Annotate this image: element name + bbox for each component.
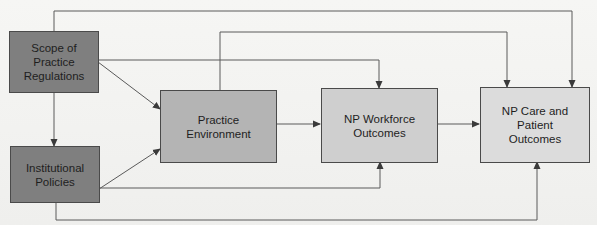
edge-scope-to-care [54, 11, 572, 87]
node-label-line: Practice Environment [161, 113, 276, 141]
node-label-line: Policies [35, 176, 75, 188]
node-np-care-and-patient-outcomes: NP Care and Patient Outcomes [480, 87, 590, 163]
diagram-canvas: Scope of Practice Regulations Institutio… [0, 0, 597, 225]
node-practice-environment: Practice Environment [160, 90, 277, 163]
node-label-line: Regulations [24, 70, 85, 82]
node-label-line: Outcomes [509, 133, 561, 145]
node-label-line: NP Care and Patient [502, 105, 568, 131]
node-scope-of-practice-regulations: Scope of Practice Regulations [9, 31, 99, 93]
node-label-line: Institutional [26, 162, 84, 174]
node-label-line: Scope of Practice [31, 42, 76, 68]
edge-environment-to-care [220, 32, 507, 90]
edge-scope-to-workforce [98, 60, 379, 88]
node-institutional-policies: Institutional Policies [10, 146, 100, 203]
node-label-line: NP Workforce [344, 113, 415, 125]
edge-scope-to-environment [98, 62, 160, 109]
node-label-line: Outcomes [353, 127, 405, 139]
edge-institutional-to-environment [99, 149, 160, 189]
node-np-workforce-outcomes: NP Workforce Outcomes [321, 88, 438, 163]
edge-institutional-to-care [56, 162, 537, 220]
edge-institutional-to-workforce [99, 162, 380, 188]
